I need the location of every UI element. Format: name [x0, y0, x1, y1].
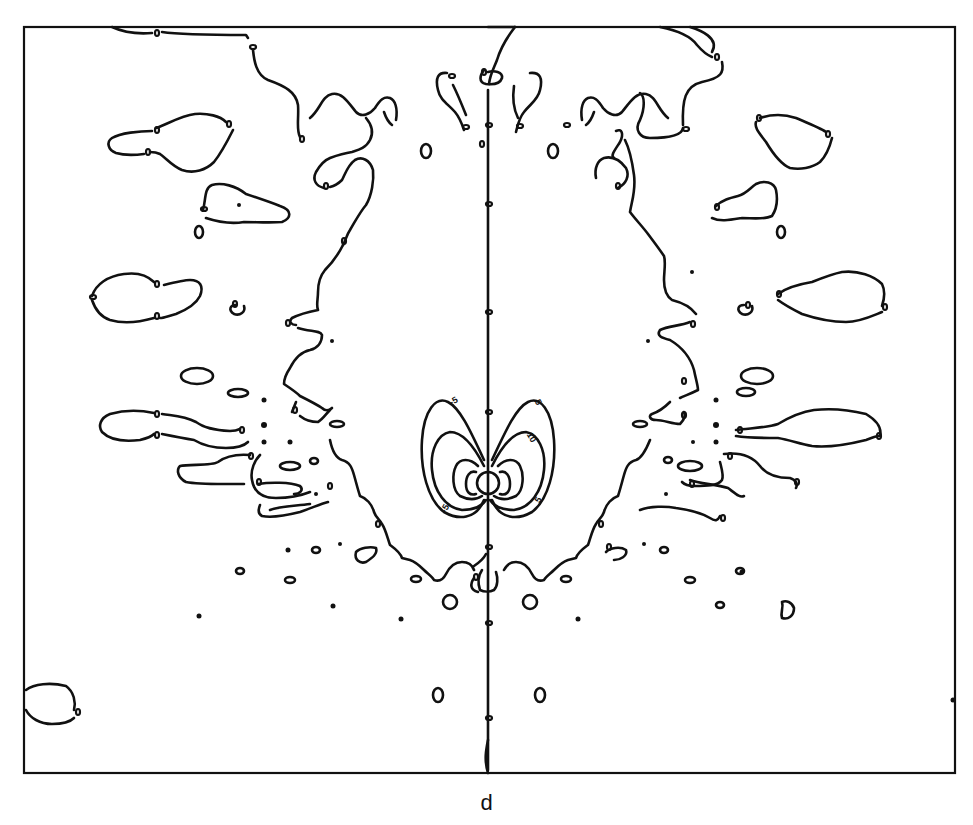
plot-frame	[24, 27, 955, 773]
contour-dots	[197, 203, 956, 703]
panel-label: d	[0, 790, 973, 816]
contour-plot: -5 5 10 -5 5	[0, 0, 973, 825]
label-neg-5-top: -5	[448, 395, 460, 408]
